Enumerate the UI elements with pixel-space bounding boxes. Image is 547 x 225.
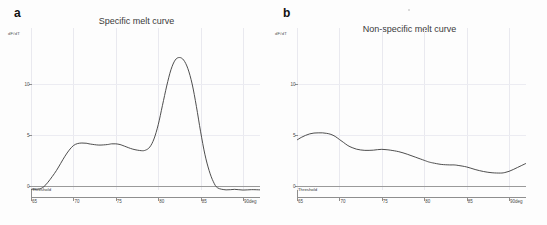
panel-a: a Specific melt curve dF/dT deg Threshol… [0, 0, 273, 225]
melt-curve-line [31, 28, 260, 198]
y-tick-label: 5 [27, 132, 30, 137]
y-tick-label: 0 [27, 183, 30, 188]
y-tick-label: 0 [293, 183, 296, 188]
panel-a-x-unit-label: deg [249, 199, 257, 204]
scan-artifact-speck [408, 9, 410, 11]
figure-container: a Specific melt curve dF/dT deg Threshol… [0, 0, 547, 225]
melt-curve-line [297, 28, 526, 198]
y-tick-label: 5 [293, 132, 296, 137]
x-tick-label: 85 [202, 199, 207, 204]
x-tick-label: 65 [32, 199, 37, 204]
panel-b-x-unit-label: deg [515, 199, 523, 204]
panel-a-ylabel: dF/dT [8, 31, 20, 36]
panel-b: b Non-specific melt curve dF/dT deg Thre… [273, 0, 546, 225]
panel-b-label: b [283, 6, 290, 20]
x-tick-label: 85 [468, 199, 473, 204]
y-tick-label: 10 [290, 81, 295, 86]
x-tick-label: 70 [340, 199, 345, 204]
panel-b-ylabel: dF/dT [275, 31, 287, 36]
x-tick-label: 65 [298, 199, 303, 204]
x-tick-label: 90 [244, 199, 249, 204]
x-tick-label: 90 [510, 199, 515, 204]
panel-b-plot-area: deg Threshold 6570758085900510 [297, 28, 526, 198]
x-tick-label: 75 [383, 199, 388, 204]
x-tick-label: 80 [425, 199, 430, 204]
x-tick-label: 80 [159, 199, 164, 204]
panel-a-plot-area: deg Threshold 6570758085900510 [31, 28, 260, 198]
y-tick-label: 10 [24, 81, 29, 86]
x-tick-label: 75 [117, 199, 122, 204]
panel-a-title: Specific melt curve [0, 16, 273, 26]
x-tick-label: 70 [74, 199, 79, 204]
